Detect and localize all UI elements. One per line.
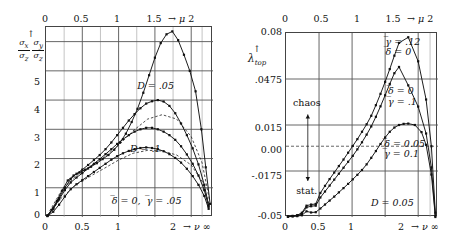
left-y-frac-sigmay-sigmaz: σy σz [32, 38, 43, 62]
left-y-frac1-num: σx [18, 38, 29, 51]
right-label-D: D = 0.05 [371, 197, 414, 207]
left-ytick-0: 0 [34, 210, 40, 220]
left-xtop-tick-15: 1.5 [146, 14, 161, 24]
left-y-frac-sigmax-sigmaz: σx σz [18, 38, 29, 62]
right-xtop-tick-05: 0.5 [313, 14, 328, 24]
right-xtop-tick-1: 1 [354, 14, 360, 24]
left-xtop-arrow-mu: → μ [168, 13, 185, 24]
right-ytick-008: 0.08 [261, 27, 282, 37]
left-y-frac2-num: σy [32, 38, 43, 51]
left-plot-svg [46, 27, 213, 217]
left-label-D-005: D = .05 [137, 81, 174, 91]
right-xbot-infinity: ∞ [431, 221, 439, 232]
left-xbot-tick-1: 1 [115, 222, 121, 232]
left-xbot-axis-label: → ν ∞ [183, 222, 211, 232]
right-label-params-top: ̅γ = .12 ̅δ = 0 [385, 37, 420, 58]
right-xtop-axis-label: → μ 2 [407, 14, 433, 24]
right-xtop-tick-0: 0 [282, 14, 288, 24]
right-ytick-00475: .0475 [255, 75, 282, 85]
left-ytick-1: 1 [34, 188, 40, 198]
right-xbot-tick-0: 0 [282, 222, 288, 232]
left-xbot-infinity: ∞ [203, 221, 211, 232]
left-label-D-01: D = .1 [130, 144, 161, 154]
right-xtop-tick-15: 1.5 [385, 14, 400, 24]
right-params-low-line2: ̅γ = 0.1 [384, 149, 425, 159]
right-y-lambda: λtop [248, 52, 267, 65]
left-xtop-tick-0: 0 [42, 14, 48, 24]
left-xtop-tick-2: 2 [188, 13, 194, 24]
left-ytick-5: 5 [34, 77, 40, 87]
left-ytick-2: 2 [34, 160, 40, 170]
right-xbot-axis-label: → ν ∞ [411, 222, 439, 232]
right-label-params-low: ̅δ = 0.05 ̅γ = 0.1 [384, 139, 425, 160]
left-plot-area [45, 26, 212, 216]
left-ytick-3: 3 [34, 133, 40, 143]
right-label-stat: stat. [296, 186, 317, 196]
right-ytick-0015: 0.015 [255, 123, 282, 133]
left-xbot-arrow-nu: → ν [183, 221, 200, 232]
right-panel: 0 0.5 1 1.5 → μ 2 ↑ λtop 0.08 .0475 0.01… [225, 0, 450, 247]
right-xbot-tick-05: 0.5 [310, 222, 325, 232]
left-xbot-tick-05: 0.5 [74, 222, 89, 232]
left-y-axis-label: ↑ σx σz σy σz [18, 30, 44, 62]
right-ytick-n00175: -.0175 [252, 171, 282, 181]
left-panel: 0 0.5 1 1.5 → μ 2 ↑ σx σz σy σz 5 4 3 2 … [0, 0, 225, 247]
left-xbot-tick-0: 0 [42, 222, 48, 232]
figure-root: 0 0.5 1 1.5 → μ 2 ↑ σx σz σy σz 5 4 3 2 … [0, 0, 450, 247]
left-ytick-4: 4 [34, 105, 40, 115]
right-xtop-tick-2: 2 [427, 13, 433, 24]
right-ytick-000: 0.00 [261, 145, 282, 155]
left-label-params: ̅δ = 0, ̅γ = .05 [112, 196, 182, 206]
right-xbot-arrow-nu: → ν [411, 221, 428, 232]
right-xtop-arrow-mu: → μ [407, 13, 424, 24]
right-label-params-mid: ̅δ = 0 ̅γ = .1 [388, 86, 417, 107]
left-delta-bar: ̅δ [112, 196, 118, 206]
right-xbot-tick-1: 1 [348, 222, 354, 232]
left-y-arrow-icon: ↑ [18, 30, 44, 38]
left-xtop-axis-label: → μ 2 [168, 14, 194, 24]
left-xbot-tick-2: 2 [170, 222, 176, 232]
right-params-top-line2: ̅δ = 0 [385, 47, 420, 57]
left-xtop-tick-1: 1 [114, 14, 120, 24]
left-y-frac1-den: σz [18, 51, 29, 63]
right-params-mid-line2: ̅γ = .1 [388, 96, 417, 106]
left-y-frac2-den: σz [32, 51, 43, 63]
right-y-axis-label: ↑ λtop [238, 45, 276, 68]
right-ytick-n005: -0.05 [258, 211, 282, 221]
right-xbot-tick-2: 2 [398, 222, 404, 232]
left-xtop-tick-05: 0.5 [73, 14, 88, 24]
right-label-chaos: chaos [293, 98, 321, 108]
left-gamma-bar: ̅γ [147, 196, 153, 206]
